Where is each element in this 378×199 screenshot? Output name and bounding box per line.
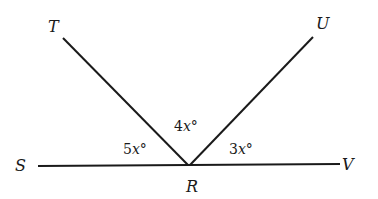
point-label-S: S xyxy=(15,156,26,175)
point-label-T: T xyxy=(48,17,60,36)
angle-label-TRU: 4x° xyxy=(174,118,198,134)
angle-label-SRT: 5x° xyxy=(123,141,147,157)
point-label-R: R xyxy=(185,177,198,196)
angle-label-URV: 3x° xyxy=(229,141,253,157)
angle-diagram: T U S V R 4x° 5x° 3x° xyxy=(0,0,378,199)
point-label-V: V xyxy=(342,155,355,174)
segment-SV xyxy=(38,164,340,166)
point-label-U: U xyxy=(316,14,330,33)
